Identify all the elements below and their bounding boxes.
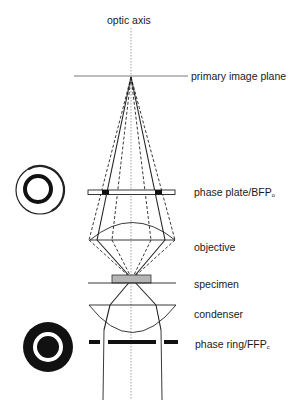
annular-phase-ring-icon (23, 322, 73, 372)
label-specimen: specimen (194, 278, 239, 290)
label-phase-ring: phase ring/FFPc (195, 338, 270, 353)
label-condenser: condenser (194, 308, 243, 320)
dashed-rays (89, 77, 175, 279)
label-optic-axis: optic axis (107, 14, 151, 26)
phase-plate-ring-left (102, 190, 109, 195)
label-objective: objective (194, 241, 235, 253)
phase-plate-ring-right (155, 190, 162, 195)
label-phase-plate: phase plate/BFPo (194, 186, 275, 201)
phase-contrast-diagram: optic axis primary image plane phase pla… (0, 0, 303, 415)
label-phase-ring-sub: c (267, 344, 270, 350)
phase-ring-bar (89, 340, 178, 344)
phase-plate-ring-icon (16, 157, 73, 214)
condenser-lens (89, 305, 176, 333)
label-phase-ring-text: phase ring/FFP (195, 338, 267, 350)
specimen (112, 275, 151, 283)
label-primary-image-plane: primary image plane (191, 70, 286, 82)
label-phase-plate-sub: o (272, 192, 275, 198)
label-phase-plate-text: phase plate/BFP (194, 186, 272, 198)
